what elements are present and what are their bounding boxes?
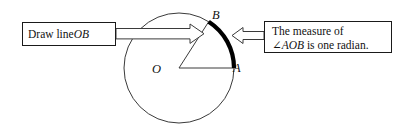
point-label-B: B xyxy=(212,8,220,23)
draw-line-ob-callout: Draw line OB xyxy=(22,22,116,46)
angle-symbol: ∠ xyxy=(272,39,282,51)
callout-right-tail: is one radian. xyxy=(304,39,369,51)
callout-left-emphasis: OB xyxy=(74,28,89,40)
callout-right-emphasis: AOB xyxy=(282,39,304,51)
point-label-O: O xyxy=(152,62,161,77)
radian-arc-AB-path xyxy=(209,22,234,68)
callout-left-lead: Draw line xyxy=(28,28,74,40)
measure-of-angle-callout: The measure of ∠AOB is one radian. xyxy=(264,21,392,53)
diagram-canvas: O A B Draw line OB The measure of ∠AOB i… xyxy=(0,0,399,129)
right-block-arrow-shape xyxy=(232,28,264,44)
geometry-illustration xyxy=(0,0,399,129)
left-block-arrow-shape xyxy=(116,24,204,43)
point-label-A: A xyxy=(233,61,241,76)
callout-right-line1: The measure of xyxy=(272,24,385,38)
callout-right-line2: ∠AOB is one radian. xyxy=(272,38,385,52)
